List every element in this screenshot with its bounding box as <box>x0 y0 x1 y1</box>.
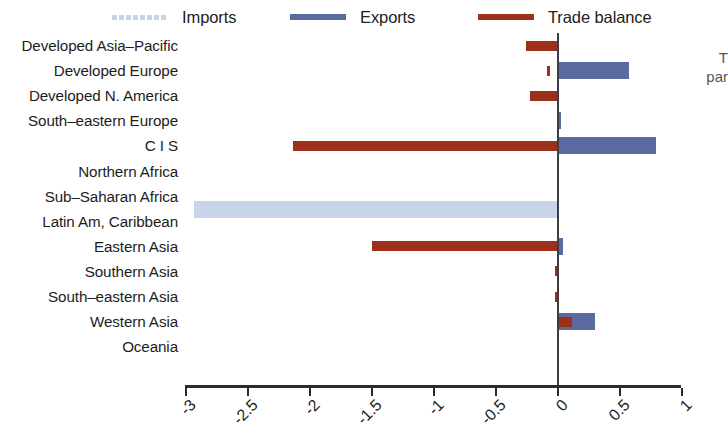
x-axis-tick-label: -0.5 <box>463 396 510 443</box>
legend-label-trade-balance: Trade balance <box>548 8 652 27</box>
legend-swatch-exports <box>290 14 346 20</box>
bar-row <box>185 133 681 158</box>
category-label: Latin Am, Caribbean <box>0 209 178 234</box>
x-axis-tick-label: -1 <box>401 396 448 443</box>
x-axis-tick-label: -2 <box>277 396 324 443</box>
bar-row <box>185 309 681 334</box>
bar-trade-balance <box>547 66 549 76</box>
legend-item-trade-balance: Trade balance <box>478 4 652 30</box>
bar-row <box>185 83 681 108</box>
x-axis-tick-label: 1 <box>649 396 696 443</box>
category-label: South–eastern Europe <box>0 108 178 133</box>
bar-exports <box>557 62 629 79</box>
chart-legend: Imports Exports Trade balance <box>0 4 705 30</box>
bar-row <box>185 58 681 83</box>
category-label: Developed N. America <box>0 83 178 108</box>
bar-trade-balance <box>557 317 572 327</box>
category-label: South–eastern Asia <box>0 284 178 309</box>
legend-swatch-trade-balance <box>478 14 534 20</box>
category-label: Eastern Asia <box>0 234 178 259</box>
legend-label-imports: Imports <box>182 8 236 27</box>
x-axis-tick-label: -1.5 <box>339 396 386 443</box>
bar-rows <box>185 33 681 385</box>
category-label: Oceania <box>0 334 178 359</box>
bar-row <box>185 33 681 58</box>
legend-item-imports: Imports <box>112 4 236 30</box>
x-axis-tick-label: -3 <box>153 396 200 443</box>
bar-row <box>185 159 681 184</box>
bar-imports <box>526 201 557 218</box>
bar-trade-balance <box>530 91 557 101</box>
legend-swatch-imports <box>112 15 168 20</box>
bar-row <box>185 259 681 284</box>
bar-row <box>185 234 681 259</box>
category-label: C I S <box>0 133 178 158</box>
bar-trade-balance <box>293 141 557 151</box>
plot-area <box>185 33 681 385</box>
bar-row <box>185 284 681 309</box>
legend-item-exports: Exports <box>290 4 415 30</box>
side-annotation: T par <box>686 48 728 86</box>
category-label: Northern Africa <box>0 159 178 184</box>
category-label: Developed Asia–Pacific <box>0 33 178 58</box>
side-annotation-line-2: par <box>686 67 728 86</box>
x-axis-tick-label: 0.5 <box>587 396 634 443</box>
bar-row <box>185 334 681 359</box>
x-axis-tick-label: 0 <box>525 396 572 443</box>
side-annotation-line-1: T <box>686 48 728 67</box>
category-label: Western Asia <box>0 309 178 334</box>
legend-label-exports: Exports <box>360 8 415 27</box>
x-axis-tick-label: -2.5 <box>215 396 262 443</box>
bar-trade-balance <box>372 241 557 251</box>
category-axis-labels: Developed Asia–PacificDeveloped EuropeDe… <box>0 33 178 385</box>
bar-trade-balance <box>526 41 557 51</box>
zero-axis-line <box>557 33 559 389</box>
bar-row <box>185 108 681 133</box>
category-label: Developed Europe <box>0 58 178 83</box>
category-label: Sub–Saharan Africa <box>0 184 178 209</box>
category-label: Southern Asia <box>0 259 178 284</box>
bar-exports <box>557 137 656 154</box>
x-axis <box>185 385 681 388</box>
